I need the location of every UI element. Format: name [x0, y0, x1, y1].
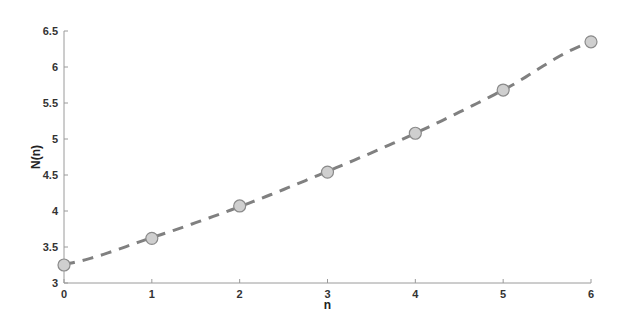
x-tick-label: 5	[500, 288, 506, 300]
y-tick-label: 5.5	[43, 97, 58, 109]
chart: 33.544.555.566.5 0123456 n N(n)	[0, 0, 628, 321]
data-point-marker	[322, 166, 334, 178]
data-point-marker	[585, 36, 597, 48]
x-tick-label: 1	[149, 288, 155, 300]
x-tick-label: 6	[588, 288, 594, 300]
y-tick-label: 3.5	[43, 241, 58, 253]
data-point-marker	[409, 127, 421, 139]
x-tick-label: 2	[237, 288, 243, 300]
x-tick-label: 4	[412, 288, 419, 300]
x-tick-label: 0	[61, 288, 67, 300]
y-tick-label: 4.5	[43, 169, 58, 181]
fit-curve	[64, 43, 591, 265]
y-tick-label: 6	[52, 61, 58, 73]
data-point-marker	[58, 259, 70, 271]
data-point-marker	[146, 232, 158, 244]
data-point-marker	[234, 200, 246, 212]
axes	[64, 31, 591, 283]
y-tick-label: 6.5	[43, 25, 58, 37]
data-point-marker	[497, 84, 509, 96]
y-axis-label: N(n)	[29, 145, 43, 169]
y-tick-label: 5	[52, 133, 58, 145]
y-tick-label: 3	[52, 277, 58, 289]
data-markers	[58, 36, 597, 271]
x-axis-ticks: 0123456	[61, 279, 594, 300]
y-tick-label: 4	[52, 205, 59, 217]
x-axis-label: n	[324, 298, 331, 312]
